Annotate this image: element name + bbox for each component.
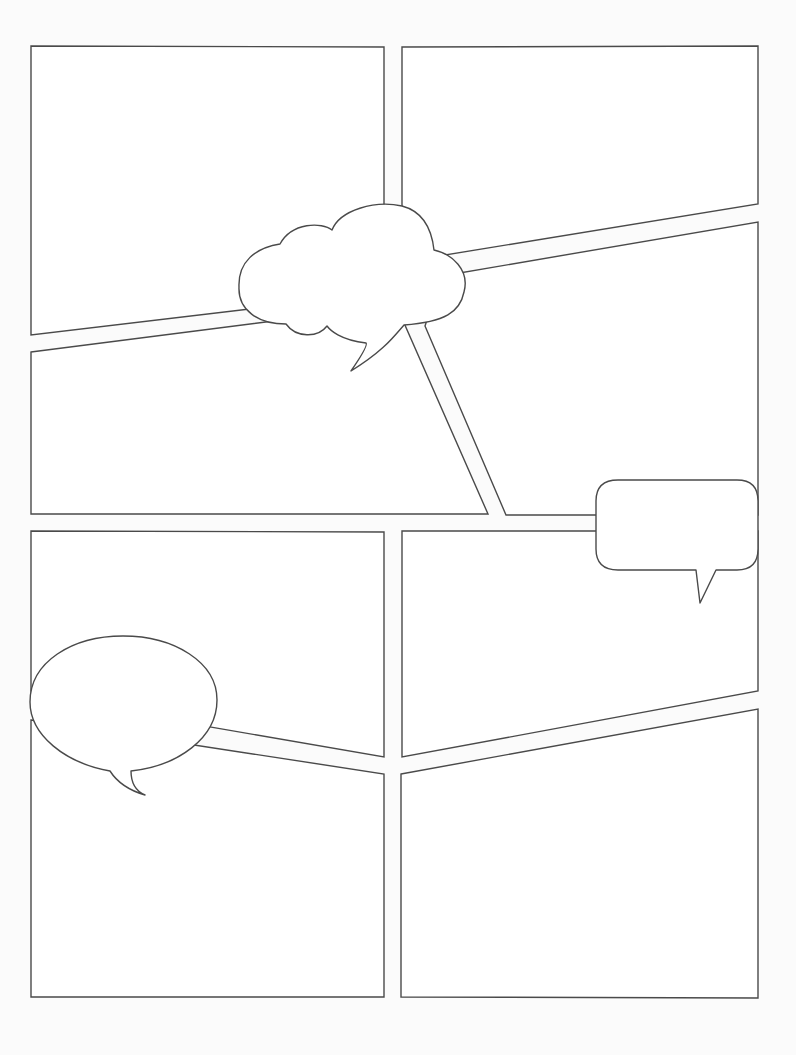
comic-layout-canvas [0,0,796,1055]
comic-template-page [0,0,796,1055]
